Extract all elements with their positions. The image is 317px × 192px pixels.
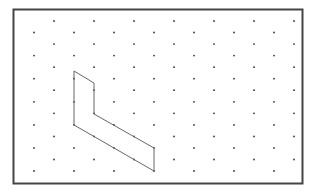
grid-dot [253,89,255,91]
grid-dot [33,78,35,80]
grid-dot [93,66,95,68]
grid-dot [233,170,235,172]
grid-dot [33,147,35,149]
grid-dot [233,55,235,57]
grid-dot [293,66,295,68]
grid-dot [193,147,195,149]
grid-dot [173,89,175,91]
grid-dot [253,20,255,22]
grid-dot [233,124,235,126]
grid-dot [33,101,35,103]
grid-dot [53,66,55,68]
grid-dot [213,43,215,45]
grid-dot [173,20,175,22]
grid-dot [73,170,75,172]
grid-dot [173,43,175,45]
grid-dot [213,159,215,161]
grid-dot [153,78,155,80]
grid-dot [133,112,135,114]
grid-dot [53,112,55,114]
grid-dot [273,124,275,126]
grid-dot [233,78,235,80]
grid-dot [53,20,55,22]
grid-dot [213,20,215,22]
grid-dot [113,78,115,80]
grid-dot [193,101,195,103]
grid-dot [53,43,55,45]
grid-dot [273,170,275,172]
grid-dot [193,78,195,80]
grid-dot [133,66,135,68]
grid-dot [33,32,35,34]
isometric-grid-diagram [0,0,317,192]
grid-dot [113,32,115,34]
grid-dot [193,170,195,172]
grid-dot [233,101,235,103]
grid-dot [93,43,95,45]
grid-dot [213,66,215,68]
grid-dot [133,20,135,22]
grid-dot [273,55,275,57]
grid-dot [153,101,155,103]
grid-dot [293,112,295,114]
grid-dot [133,43,135,45]
grid-dot [193,124,195,126]
grid-dot [113,170,115,172]
grid-dot [153,32,155,34]
grid-dot [193,32,195,34]
grid-dot [193,55,195,57]
grid-dot [153,55,155,57]
grid-dot [293,20,295,22]
grid-dot [293,136,295,138]
grid-dot [53,136,55,138]
grid-dot [273,32,275,34]
grid-dot [173,159,175,161]
grid-dot [173,136,175,138]
grid-dot [253,66,255,68]
grid-dot [213,89,215,91]
grid-dot [253,112,255,114]
grid-dot [33,124,35,126]
grid-dot [93,159,95,161]
grid-dot [233,32,235,34]
grid-dot [173,66,175,68]
grid-dot [113,55,115,57]
grid-dot [53,89,55,91]
grid-dot [113,101,115,103]
grid-dot [253,159,255,161]
grid-dot [33,170,35,172]
grid-dot [73,32,75,34]
grid-dot [253,136,255,138]
grid-dot [273,78,275,80]
grid-dot [93,20,95,22]
grid-dot [273,147,275,149]
grid-dot [73,147,75,149]
grid-dot [153,124,155,126]
grid-dot [273,101,275,103]
grid-dot [33,55,35,57]
grid-dot [133,89,135,91]
grid-dot [173,112,175,114]
grid-dot [73,55,75,57]
grid-dot [293,89,295,91]
grid-dot [293,159,295,161]
grid-dot [53,159,55,161]
frame-border [14,10,303,184]
grid-dot [213,112,215,114]
grid-dot [293,43,295,45]
grid-dot [253,43,255,45]
grid-dot [233,147,235,149]
grid-dot [213,136,215,138]
